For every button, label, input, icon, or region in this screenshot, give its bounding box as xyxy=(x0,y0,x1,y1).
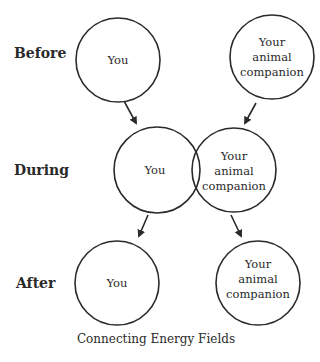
stage-label-during: During xyxy=(14,162,69,178)
stage-label-after: After xyxy=(15,275,56,291)
before-companion-line2: animal xyxy=(252,50,292,64)
after-companion-line1: Your xyxy=(244,257,272,271)
before-companion-line3: companion xyxy=(240,65,304,79)
arrow-down-icon xyxy=(139,215,148,236)
after-companion-line3: companion xyxy=(226,287,290,301)
during-companion-node: Your animal companion xyxy=(192,128,276,212)
during-companion-line2: animal xyxy=(214,164,254,178)
before-you-node: You xyxy=(76,18,160,102)
after-you-node: You xyxy=(75,241,159,325)
during-companion-line1: Your xyxy=(220,149,248,163)
after-companion-node: Your animal companion xyxy=(216,241,300,325)
after-you-label: You xyxy=(106,276,128,290)
arrow-down-icon xyxy=(245,103,256,123)
before-companion-node: Your animal companion xyxy=(230,15,314,99)
before-you-label: You xyxy=(107,53,129,67)
during-you-node: You xyxy=(114,127,200,213)
arrow-down-icon xyxy=(124,101,136,123)
before-companion-line1: Your xyxy=(258,35,286,49)
stage-label-before: Before xyxy=(14,45,66,61)
arrow-down-icon xyxy=(231,215,241,236)
after-companion-line2: animal xyxy=(238,272,278,286)
during-companion-line3: companion xyxy=(202,179,266,193)
during-you-label: You xyxy=(144,163,166,177)
energy-fields-diagram: Before During After You Your animal comp… xyxy=(0,0,320,362)
diagram-caption: Connecting Energy Fields xyxy=(77,332,235,346)
